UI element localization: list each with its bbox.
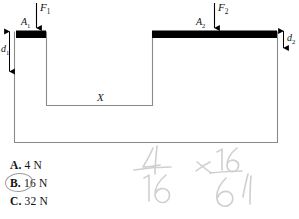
answer-option-a[interactable]: A. 4 N bbox=[10, 156, 48, 174]
area-right-label: A2 bbox=[196, 17, 205, 30]
answer-letter-b: B. bbox=[10, 177, 21, 189]
piston-right bbox=[152, 31, 277, 39]
answer-value-a: 4 N bbox=[25, 159, 43, 171]
fluid-level-label: X bbox=[97, 92, 104, 103]
answer-letter-a: A. bbox=[10, 159, 22, 171]
vessel-outline bbox=[15, 32, 278, 143]
depth-left-label: d1 bbox=[1, 44, 9, 57]
answer-option-b[interactable]: B. 16 N bbox=[10, 174, 48, 192]
figure-canvas: F1 A1 F2 A2 d1 d2 X A. 4 N B. 16 N C. 32… bbox=[0, 0, 299, 219]
answer-value-c: 32 N bbox=[25, 195, 48, 207]
depth-right-label: d2 bbox=[287, 33, 295, 46]
answer-letter-c: C. bbox=[10, 195, 22, 207]
answer-option-c[interactable]: C. 32 N bbox=[10, 192, 48, 210]
piston-left bbox=[16, 31, 46, 39]
area-left-label: A1 bbox=[21, 17, 30, 30]
force-left-label: F1 bbox=[40, 2, 50, 16]
answer-choices: A. 4 N B. 16 N C. 32 N bbox=[10, 156, 48, 210]
force-right-label: F2 bbox=[218, 2, 228, 16]
answer-value-b: 16 N bbox=[24, 177, 47, 189]
